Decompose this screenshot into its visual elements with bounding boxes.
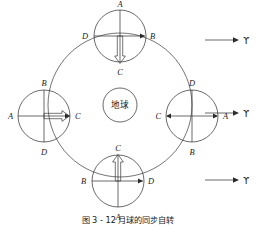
moon-top-thin-arrowhead-right <box>140 34 145 39</box>
vernal-equinox-symbol-middle: ϒ <box>243 109 249 119</box>
moon-bottom-label-B: B <box>81 177 86 186</box>
figure-root: 地球 A B C D B C D A <box>0 0 257 225</box>
moon-left-label-C: C <box>75 112 81 121</box>
moon-left-label-D: D <box>40 148 47 157</box>
moon-left-label-B: B <box>41 79 46 88</box>
moon-right-arrowhead-left <box>166 114 171 119</box>
moon-right: D A B C <box>155 79 229 157</box>
reference-arrow-bottom-head <box>233 177 239 183</box>
moon-bottom-label-D: D <box>147 177 154 186</box>
reference-arrow-top: ϒ <box>205 36 249 46</box>
moon-bottom-thin-arrowhead-right <box>138 179 143 184</box>
moon-right-label-C: C <box>155 112 161 121</box>
moon-top-label-C: C <box>117 68 123 77</box>
figure-caption: 图 3 - 12 月球的同步自转 <box>82 215 175 225</box>
moon-right-label-D: D <box>188 79 195 88</box>
moon-right-label-B: B <box>189 148 194 157</box>
moon-top-label-D: D <box>81 32 88 41</box>
vernal-equinox-symbol-top: ϒ <box>243 36 249 46</box>
moon-top-label-A: A <box>116 0 123 9</box>
moon-synchronous-rotation-diagram: 地球 A B C D B C D A <box>0 0 257 225</box>
moon-left-label-A: A <box>7 112 14 121</box>
earth-label: 地球 <box>111 99 129 110</box>
moon-right-arrowhead-right <box>213 114 218 119</box>
reference-arrow-middle-head <box>233 110 239 116</box>
moon-left: B C D A <box>7 79 81 157</box>
reference-arrow-bottom: ϒ <box>205 176 249 186</box>
moon-top-label-B: B <box>150 32 155 41</box>
moon-bottom-label-C: C <box>115 144 121 153</box>
reference-arrow-top-head <box>233 37 239 43</box>
vernal-equinox-symbol-bottom: ϒ <box>243 176 249 186</box>
moon-bottom: C D A B <box>81 144 154 222</box>
